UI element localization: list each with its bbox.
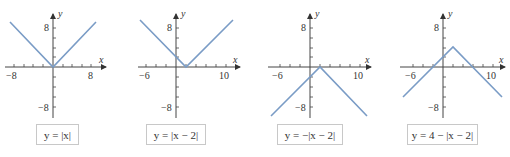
graph-abs-x-minus-2: −6 10 8 −8 x y: [138, 8, 240, 118]
equation-label-4: y = 4 − |x − 2|: [407, 124, 478, 145]
y-axis-label: y: [180, 8, 186, 19]
x-tick-label-pos: 10: [486, 70, 496, 81]
y-tick-label-pos: 8: [44, 22, 49, 33]
y-tick-label-neg: −8: [428, 102, 439, 113]
x-tick-label-neg: −8: [6, 70, 17, 81]
x-tick-label-pos: 10: [219, 70, 229, 81]
y-axis-label: y: [447, 8, 453, 19]
graph-4-minus-abs-x-minus-2: −6 10 8 −8 x y: [400, 8, 505, 118]
equation-label-2: y = |x − 2|: [146, 124, 206, 145]
y-tick-label-pos: 8: [434, 22, 439, 33]
graph-neg-abs-x-minus-2: −6 10 8 −8 x y: [268, 8, 371, 118]
y-tick-label-neg: −8: [38, 102, 49, 113]
y-axis-label: y: [314, 8, 320, 19]
y-axis-label: y: [57, 8, 63, 19]
abs-curve: [140, 20, 233, 67]
x-tick-label-neg: −6: [405, 70, 416, 81]
equation-label-3: y = −|x − 2|: [277, 124, 343, 145]
y-tick-label-neg: −8: [295, 102, 306, 113]
equation-label-1: y = |x|: [36, 124, 79, 145]
x-axis-label: x: [98, 54, 104, 65]
graph-abs-x: −8 8 8 −8 x y: [5, 8, 106, 118]
x-axis-label: x: [498, 54, 504, 65]
y-tick-label-neg: −8: [161, 102, 172, 113]
x-tick-label-pos: 8: [88, 70, 93, 81]
x-axis-label: x: [232, 54, 238, 65]
x-tick-label-neg: −6: [139, 70, 150, 81]
x-tick-label-neg: −6: [272, 70, 283, 81]
x-tick-label-pos: 10: [353, 70, 363, 81]
y-tick-label-pos: 8: [167, 22, 172, 33]
y-tick-label-pos: 8: [301, 22, 306, 33]
x-axis-label: x: [364, 54, 370, 65]
